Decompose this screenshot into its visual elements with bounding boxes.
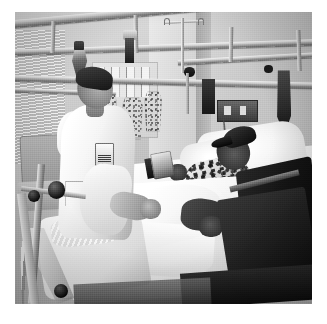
screenshot-root — [0, 0, 327, 324]
iv-tubing-2 — [186, 73, 189, 114]
hanging-pouch-3 — [144, 91, 162, 132]
iv-pole — [181, 18, 184, 73]
iv-hook-right — [198, 18, 204, 25]
traction-stand-knob-2 — [28, 190, 40, 202]
bedside-device — [149, 151, 174, 180]
rail-post-1 — [50, 21, 55, 53]
nurse-id-badge — [95, 143, 113, 165]
rail-hanger-bracket-3 — [202, 79, 214, 114]
rail-post-3 — [229, 27, 234, 62]
hospital-room-photograph — [15, 12, 312, 304]
rail-hanger-bracket-2 — [125, 38, 134, 63]
rail-hanger-1 — [74, 41, 84, 50]
iv-hook-left — [164, 18, 170, 25]
traction-stand-knob-1 — [48, 181, 66, 199]
nurse-hand — [140, 199, 161, 219]
